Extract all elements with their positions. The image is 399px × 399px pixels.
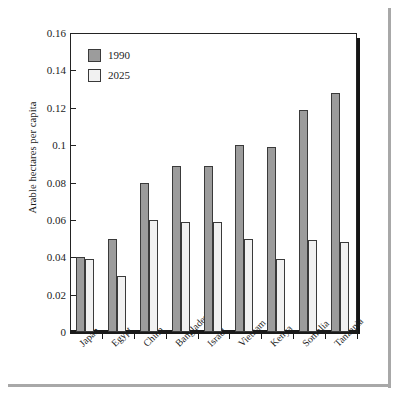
bar-vietnam-2025 — [244, 239, 253, 332]
bar-israel-2025 — [213, 222, 222, 332]
bar-tanzania-1990 — [331, 93, 340, 332]
legend-item-2025: 2025 — [88, 65, 158, 85]
y-axis-tick-label: 0.12 — [30, 102, 66, 114]
bar-egypt-2025 — [117, 276, 126, 332]
bar-vietnam-1990 — [235, 145, 244, 332]
x-axis-tick-mark — [325, 334, 326, 339]
bar-kenya-2025 — [276, 259, 285, 332]
bar-china-1990 — [140, 183, 149, 333]
x-axis-tick-mark — [198, 334, 199, 339]
y-axis-tick-label: 0.14 — [30, 64, 66, 76]
bar-egypt-1990 — [108, 239, 117, 332]
bar-japan-2025 — [85, 259, 94, 332]
y-axis-tick-labels: 0.160.140.120.10.080.060.040.020 — [26, 0, 66, 399]
bar-china-2025 — [149, 220, 158, 332]
plot-frame-shadow — [357, 38, 360, 334]
y-axis-tick-label: 0 — [30, 326, 66, 338]
y-axis-tick-label: 0.06 — [30, 214, 66, 226]
y-axis-tick-mark — [70, 220, 76, 221]
bar-chart-figure: Arable hectares per capita 0.160.140.120… — [0, 0, 399, 399]
bar-bangladesh-2025 — [181, 222, 190, 332]
legend-swatch-icon — [88, 49, 101, 62]
y-axis-tick-mark — [70, 183, 76, 184]
legend-item-1990: 1990 — [88, 45, 158, 65]
x-axis-tick-mark — [166, 334, 167, 339]
scanned-page: Arable hectares per capita 0.160.140.120… — [0, 0, 399, 399]
chart-legend: 19902025 — [88, 45, 158, 85]
y-axis-tick-label: 0.16 — [30, 27, 66, 39]
legend-label: 2025 — [108, 69, 130, 81]
y-axis-tick-label: 0.04 — [30, 251, 66, 263]
y-axis-tick-label: 0.1 — [30, 139, 66, 151]
bar-israel-1990 — [204, 166, 213, 332]
x-axis-tick-mark — [357, 334, 358, 339]
x-axis-tick-mark — [134, 334, 135, 339]
bar-somalia-2025 — [308, 240, 317, 332]
y-axis-tick-mark — [70, 70, 76, 71]
y-axis-tick-mark — [70, 108, 76, 109]
y-axis-tick-label: 0.08 — [30, 177, 66, 189]
x-axis-tick-mark — [261, 334, 262, 339]
bar-japan-1990 — [76, 257, 85, 332]
x-axis-tick-mark — [102, 334, 103, 339]
y-axis-tick-label: 0.02 — [30, 289, 66, 301]
bar-tanzania-2025 — [340, 242, 349, 332]
legend-label: 1990 — [108, 49, 130, 61]
bar-somalia-1990 — [299, 110, 308, 332]
bar-kenya-1990 — [267, 147, 276, 332]
x-axis-tick-mark — [229, 334, 230, 339]
y-axis-tick-mark — [70, 145, 76, 146]
legend-swatch-icon — [88, 69, 101, 82]
x-axis-tick-mark — [293, 334, 294, 339]
bar-bangladesh-1990 — [172, 166, 181, 332]
